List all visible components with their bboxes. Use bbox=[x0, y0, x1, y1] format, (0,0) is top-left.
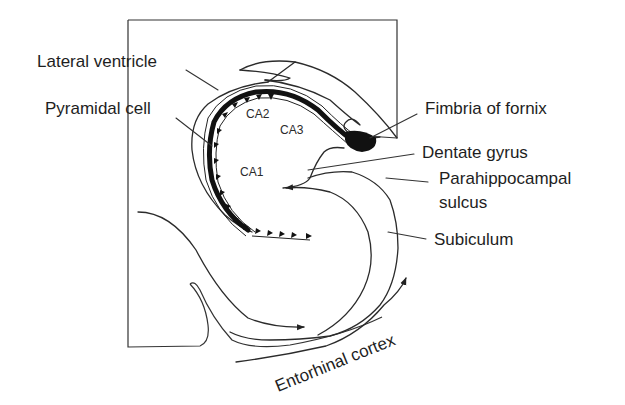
label-subiculum: Subiculum bbox=[434, 230, 513, 249]
label-pyramidal-cell: Pyramidal cell bbox=[45, 99, 151, 118]
label-fimbria-of-fornix: Fimbria of fornix bbox=[425, 99, 547, 118]
hippocampus-diagram: CA2 CA3 CA1 Lateral ventricle Pyramidal … bbox=[0, 0, 625, 405]
perforant-path-arrows bbox=[138, 188, 406, 363]
fimbria-shape bbox=[345, 131, 376, 152]
pyramidal-cell-layer bbox=[203, 85, 376, 240]
section-frame bbox=[128, 20, 397, 347]
label-parahippocampal-sulcus-line2: sulcus bbox=[439, 193, 487, 212]
label-parahippocampal-sulcus-line1: Parahippocampal bbox=[439, 169, 571, 188]
leader-lines bbox=[176, 70, 428, 239]
label-dentate-gyrus: Dentate gyrus bbox=[422, 143, 528, 162]
region-ca3: CA3 bbox=[280, 123, 304, 137]
region-ca2: CA2 bbox=[246, 107, 270, 121]
region-ca1: CA1 bbox=[240, 165, 264, 179]
label-lateral-ventricle: Lateral ventricle bbox=[37, 52, 157, 71]
